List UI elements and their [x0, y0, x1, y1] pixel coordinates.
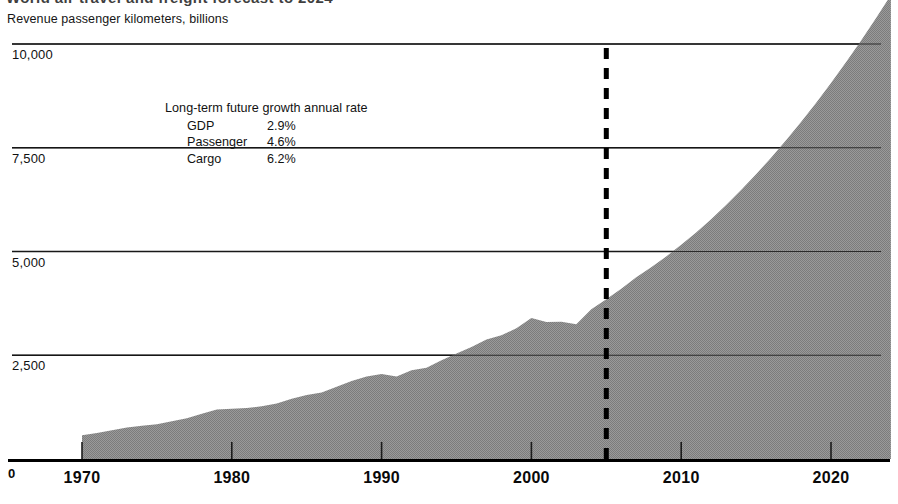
annotation-value-cargo: 6.2% — [267, 151, 296, 168]
y-tick-label-2500: 2,500 — [12, 358, 46, 373]
y-tick-label-5000: 5,000 — [12, 255, 46, 270]
annotation-value-passenger: 4.6% — [267, 134, 296, 151]
growth-rate-annotation: Long-term future growth annual rate GDP2… — [165, 100, 368, 167]
chart-container: World air travel and freight forecast to… — [0, 0, 898, 504]
y-tick-label-10000: 10,000 — [12, 47, 53, 62]
x-tick-label-1990: 1990 — [363, 469, 400, 487]
annotation-row-cargo: Cargo6.2% — [165, 151, 368, 168]
annotation-value-gdp: 2.9% — [267, 118, 296, 135]
plot-svg — [0, 0, 898, 504]
x-axis-zero-label: 0 — [8, 466, 16, 481]
annotation-row-passenger: Passenger4.6% — [165, 134, 368, 151]
annotation-title: Long-term future growth annual rate — [165, 100, 368, 117]
plot-area — [0, 0, 898, 504]
x-tick-label-2000: 2000 — [513, 469, 550, 487]
y-tick-label-7500: 7,500 — [12, 151, 46, 166]
x-tick-label-1970: 1970 — [64, 469, 101, 487]
annotation-row-gdp: GDP2.9% — [165, 118, 368, 135]
annotation-label-gdp: GDP — [187, 118, 267, 135]
x-tick-label-2020: 2020 — [813, 469, 850, 487]
annotation-label-cargo: Cargo — [187, 151, 267, 168]
annotation-label-passenger: Passenger — [187, 134, 267, 151]
x-tick-label-1980: 1980 — [213, 469, 250, 487]
x-tick-label-2010: 2010 — [663, 469, 700, 487]
